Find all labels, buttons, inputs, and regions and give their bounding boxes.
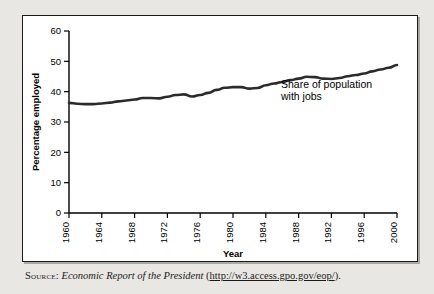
source-title: Economic Report of the President: [62, 270, 204, 281]
line-chart: 0102030405060196019641968197219761980198…: [23, 16, 419, 263]
y-axis-tick-label: 40: [50, 86, 61, 97]
x-axis-tick-label: 1992: [322, 222, 333, 243]
figure-container: 0102030405060196019641968197219761980198…: [0, 0, 434, 294]
y-axis-tick-label: 0: [56, 207, 61, 218]
y-axis-tick-label: 10: [50, 177, 61, 188]
source-url-link[interactable]: http://w3.access.gpo.gov/eop/: [210, 270, 335, 281]
x-axis-tick-label: 1984: [257, 222, 268, 243]
chart-panel: 0102030405060196019641968197219761980198…: [22, 15, 418, 262]
x-axis-tick-label: 1972: [158, 222, 169, 243]
y-axis-tick-label: 60: [50, 25, 61, 36]
source-caption: Source: Economic Report of the President…: [25, 269, 425, 282]
x-axis-tick-label: 1964: [93, 222, 104, 243]
x-axis-tick-label: 1976: [191, 222, 202, 243]
x-axis-tick-label: 1996: [355, 222, 366, 243]
y-axis-title: Percentage employed: [30, 73, 41, 171]
x-axis-tick-label: 1988: [290, 222, 301, 243]
annotation-line-2: with jobs: [280, 90, 322, 102]
x-axis-tick-label: 1960: [60, 222, 71, 243]
source-label: Source:: [25, 270, 59, 281]
y-axis-tick-label: 30: [50, 116, 61, 127]
x-axis-tick-label: 1980: [224, 222, 235, 243]
y-axis-tick-label: 50: [50, 56, 61, 67]
y-axis-tick-label: 20: [50, 147, 61, 158]
source-close-paren: ).: [335, 270, 341, 281]
annotation-line-1: Share of population: [281, 78, 372, 90]
x-axis-tick-label: 2000: [388, 222, 399, 243]
x-axis-title: Year: [223, 248, 243, 259]
x-axis-tick-label: 1968: [126, 222, 137, 243]
